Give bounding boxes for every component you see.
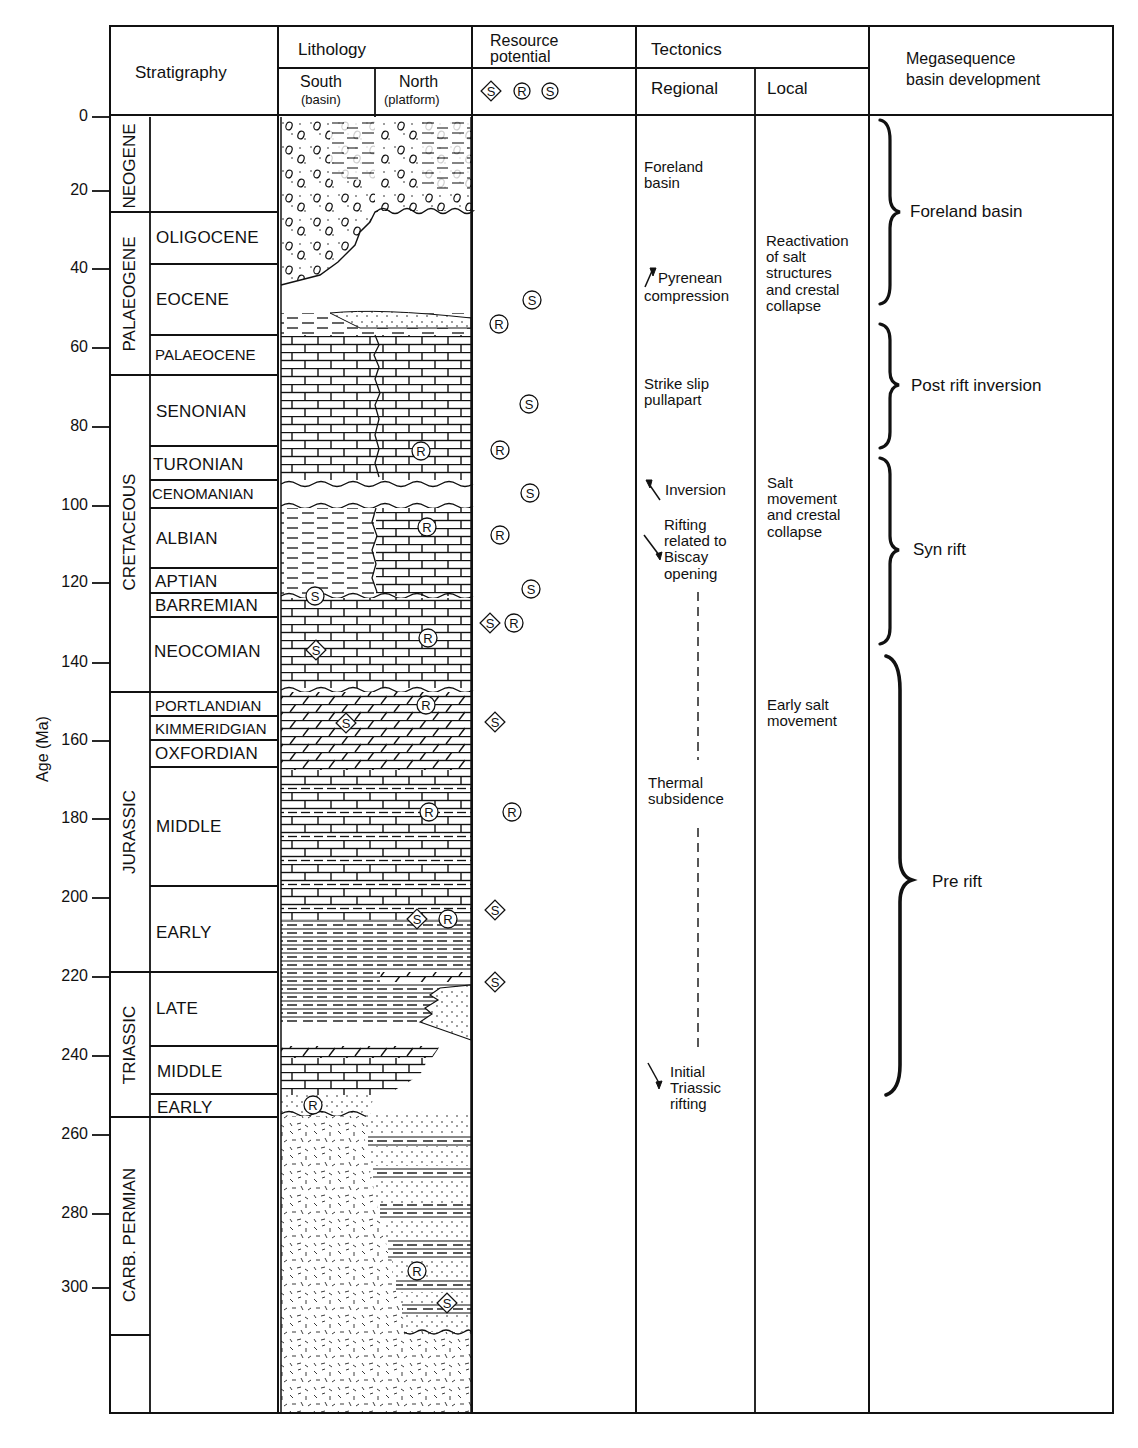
r-circle-icon: R bbox=[490, 315, 508, 333]
svg-text:S: S bbox=[486, 616, 495, 631]
regional-inversion: Inversion bbox=[665, 482, 726, 498]
svg-text:S: S bbox=[312, 643, 321, 658]
legend-s-circle-icon: S bbox=[542, 83, 558, 99]
r-circle-icon: R bbox=[503, 803, 521, 821]
local-salt-movement: Salt movement and crestal collapse bbox=[767, 475, 840, 540]
stage-cenomanian: CENOMANIAN bbox=[152, 486, 254, 502]
regional-strike-line2: pullapart bbox=[644, 392, 709, 408]
local-react-line1: Reactivation bbox=[766, 233, 849, 249]
regional-pyrenean-line2: compression bbox=[644, 288, 729, 304]
local-react-line4: and crestal bbox=[766, 282, 849, 298]
s-diamond-icon: S bbox=[480, 613, 500, 633]
tick-160: 160 bbox=[38, 732, 88, 749]
svg-text:S: S bbox=[443, 1296, 452, 1311]
era-neogene: NEOGENE bbox=[120, 116, 140, 216]
arrow-up-inversion-icon bbox=[646, 480, 660, 500]
arrow-down-triassic-icon bbox=[648, 1063, 662, 1089]
r-circle-icon: R bbox=[418, 518, 436, 536]
svg-text:S: S bbox=[546, 84, 555, 99]
stage-portlandian: PORTLANDIAN bbox=[155, 698, 261, 714]
header-regional: Regional bbox=[651, 80, 718, 98]
tick-20: 20 bbox=[38, 182, 88, 199]
regional-foreland-basin: Foreland basin bbox=[644, 159, 703, 191]
regional-initial-line1: Initial bbox=[670, 1064, 721, 1080]
s-circle-icon: S bbox=[521, 484, 539, 502]
local-early-line1: Early salt bbox=[767, 697, 837, 713]
mega-post-rift-inversion: Post rift inversion bbox=[911, 377, 1041, 395]
regional-thermal-subsidence: Thermal subsidence bbox=[648, 775, 724, 807]
era-carb-permian: CARB. PERMIAN bbox=[120, 1145, 140, 1325]
svg-text:S: S bbox=[525, 397, 534, 412]
regional-rifting-line4: opening bbox=[664, 566, 727, 582]
brace-syn-rift bbox=[880, 458, 899, 644]
s-diamond-icon: S bbox=[485, 712, 505, 732]
regional-rifting-biscay: Rifting related to Biscay opening bbox=[664, 517, 727, 582]
s-diamond-icon: S bbox=[485, 972, 505, 992]
mega-pre-rift: Pre rift bbox=[932, 873, 982, 891]
stage-jurassic-middle: MIDDLE bbox=[156, 818, 221, 836]
y-axis-label: Age (Ma) bbox=[34, 716, 52, 782]
regional-rifting-line3: Biscay bbox=[664, 549, 727, 565]
svg-text:S: S bbox=[491, 903, 500, 918]
r-circle-icon: R bbox=[408, 1262, 426, 1280]
regional-strike-slip: Strike slip pullapart bbox=[644, 376, 709, 408]
era-jurassic: JURASSIC bbox=[120, 762, 140, 902]
brace-foreland-basin bbox=[880, 120, 900, 304]
stage-turonian: TURONIAN bbox=[153, 456, 243, 474]
era-palaeogene: PALAEOGENE bbox=[120, 214, 140, 374]
svg-text:R: R bbox=[421, 698, 430, 713]
tick-80: 80 bbox=[38, 418, 88, 435]
stage-triassic-middle: MIDDLE bbox=[157, 1063, 222, 1081]
regional-thermal-line1: Thermal bbox=[648, 775, 724, 791]
header-stratigraphy: Stratigraphy bbox=[135, 64, 227, 82]
legend-s-diamond-icon: S bbox=[481, 81, 501, 101]
header-basin-development: basin development bbox=[906, 72, 1040, 89]
local-react-line2: of salt bbox=[766, 249, 849, 265]
stage-barremian: BARREMIAN bbox=[155, 597, 258, 615]
stage-triassic-late: LATE bbox=[156, 1000, 198, 1018]
local-react-line3: structures bbox=[766, 265, 849, 281]
local-early-line2: movement bbox=[767, 713, 837, 729]
tick-100: 100 bbox=[38, 497, 88, 514]
header-south: South bbox=[300, 74, 342, 91]
svg-text:S: S bbox=[311, 589, 320, 604]
tick-180: 180 bbox=[38, 810, 88, 827]
tick-0: 0 bbox=[38, 108, 88, 125]
header-resource: Resource bbox=[490, 33, 558, 48]
arrow-down-rifting-icon bbox=[644, 535, 662, 560]
regional-pyrenean-line1: Pyrenean bbox=[658, 270, 722, 286]
r-circle-icon: R bbox=[439, 910, 457, 928]
svg-text:R: R bbox=[423, 631, 432, 646]
stage-palaeocene: PALAEOCENE bbox=[155, 347, 256, 363]
local-salt-line4: collapse bbox=[767, 524, 840, 540]
local-early-salt-movement: Early salt movement bbox=[767, 697, 837, 729]
s-diamond-icon: S bbox=[485, 900, 505, 920]
era-cretaceous: CRETACEOUS bbox=[120, 442, 140, 622]
arrow-up-pyrenean-icon bbox=[645, 268, 656, 287]
header-megasequence: Megasequence bbox=[906, 51, 1015, 68]
tick-60: 60 bbox=[38, 339, 88, 356]
tick-120: 120 bbox=[38, 574, 88, 591]
regional-initial-line3: rifting bbox=[670, 1096, 721, 1112]
svg-text:R: R bbox=[308, 1098, 317, 1113]
stage-jurassic-early: EARLY bbox=[156, 924, 212, 942]
svg-text:R: R bbox=[424, 805, 433, 820]
regional-rifting-line1: Rifting bbox=[664, 517, 727, 533]
regional-foreland-line1: Foreland bbox=[644, 159, 703, 175]
brace-pre-rift bbox=[886, 656, 912, 1095]
stratigraphic-chart: S R S S R S R S R S S R S R S S R R S R … bbox=[0, 0, 1138, 1448]
stage-albian: ALBIAN bbox=[156, 530, 218, 548]
svg-text:R: R bbox=[494, 317, 503, 332]
svg-text:R: R bbox=[416, 444, 425, 459]
brace-post-rift-inversion bbox=[880, 324, 899, 448]
stage-senonian: SENONIAN bbox=[156, 403, 246, 421]
local-salt-line3: and crestal bbox=[767, 507, 840, 523]
stage-aptian: APTIAN bbox=[155, 573, 218, 591]
stage-oxfordian: OXFORDIAN bbox=[155, 745, 258, 763]
s-circle-icon: S bbox=[523, 291, 541, 309]
stage-neocomian: NEOCOMIAN bbox=[154, 643, 261, 661]
svg-text:S: S bbox=[528, 293, 537, 308]
mega-syn-rift: Syn rift bbox=[913, 541, 966, 559]
stage-kimmeridgian: KIMMERIDGIAN bbox=[155, 721, 267, 737]
svg-text:R: R bbox=[495, 528, 504, 543]
